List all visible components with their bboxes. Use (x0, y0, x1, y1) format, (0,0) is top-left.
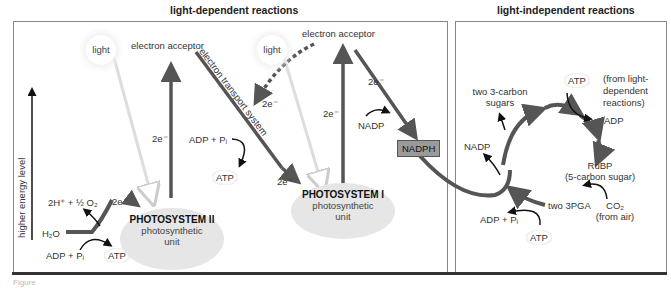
pga-label: two 3PGA (548, 200, 591, 211)
figure-caption: Figure (13, 277, 36, 288)
ps1-title: PHOTOSYSTEM I (302, 189, 384, 200)
co2-line1: CO₂ (606, 200, 624, 211)
adp-label: ADP (604, 115, 624, 126)
ps2-line1: photosynthetic (141, 225, 202, 236)
photosystem-i: PHOTOSYSTEM I photosynthetic unit (291, 183, 395, 239)
rubp-line1: RuBP (588, 160, 613, 171)
photosystem-ii: PHOTOSYSTEM II photosynthetic unit (120, 208, 224, 270)
light-icon: light (257, 35, 287, 65)
atp-badge: ATP (526, 230, 552, 245)
e-ps1-up: 2e⁻ (323, 108, 339, 119)
electron-acceptor-1: electron acceptor (131, 40, 204, 51)
energy-axis-label: higher energy level (16, 158, 27, 238)
electron-acceptor-2: electron acceptor (302, 28, 375, 39)
sugars-label: two 3-carbon sugars (465, 86, 535, 108)
ps2-title: PHOTOSYSTEM II (130, 214, 215, 225)
e-nadph: 2e⁻ (368, 76, 384, 87)
atp-badge: ATP (564, 73, 590, 88)
adp-pi-cycle: ADP + Pᵢ (480, 214, 518, 225)
nadp-label: NADP (358, 120, 384, 131)
rubp-label: RuBP (5-carbon sugar) (560, 160, 640, 182)
from-light-3: reactions) (603, 97, 645, 108)
light-icon: light (86, 35, 116, 65)
e-ps2-up: 2e⁻ (152, 133, 168, 144)
e-dashed: 2e⁻ (262, 98, 278, 109)
nadp-cycle-label: NADP (464, 141, 490, 152)
nadph-box: NADPH (397, 140, 440, 157)
rubp-line2: (5-carbon sugar) (565, 171, 635, 182)
e-split: 2e⁻ (112, 196, 128, 207)
co2-line2: (from air) (596, 211, 635, 222)
adp-pi-1: ADP + Pᵢ (189, 134, 227, 145)
atp-badge: ATP (212, 170, 238, 185)
e-ets-bottom: 2e⁻ (277, 176, 293, 187)
ps1-line1: photosynthetic (312, 200, 373, 211)
adp-pi-2: ADP + Pᵢ (46, 250, 84, 261)
from-light-1: (from light- (603, 73, 648, 84)
ps1-line2: unit (335, 211, 350, 222)
ps2-line2: unit (164, 236, 179, 247)
water-label: H₂O (42, 228, 60, 239)
products-label: 2H⁺ + ½ O₂ (48, 197, 98, 208)
co2-label: CO₂ (from air) (590, 200, 640, 222)
sugars-line1: two 3-carbon (473, 86, 528, 97)
sugars-line2: sugars (486, 97, 515, 108)
from-light-2: dependent (603, 85, 648, 96)
